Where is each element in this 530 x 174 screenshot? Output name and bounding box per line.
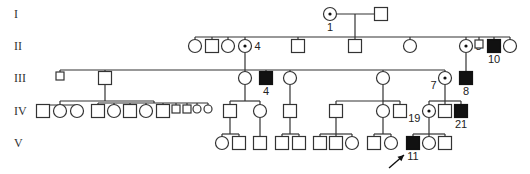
- individual-number: 7: [430, 79, 436, 91]
- individual-I-2: [375, 8, 388, 21]
- male-symbol: [439, 137, 452, 150]
- individual-V-11: 11: [407, 137, 420, 162]
- female-symbol: [71, 105, 84, 118]
- affected-male-symbol: [407, 137, 420, 150]
- individual-number: 4: [255, 40, 261, 52]
- male-symbol: [92, 105, 105, 118]
- generation-label-IV: IV: [14, 104, 27, 118]
- male-symbol: [56, 72, 64, 80]
- male-symbol: [292, 40, 305, 53]
- female-symbol: [54, 105, 67, 118]
- female-symbol: [222, 40, 235, 53]
- male-symbol: [157, 105, 170, 118]
- female-symbol: [284, 72, 297, 85]
- individual-V-6: [314, 137, 327, 150]
- individual-IV-12: [204, 105, 212, 113]
- female-symbol: [216, 137, 229, 150]
- female-symbol: [377, 105, 390, 118]
- individual-III-b: [99, 72, 112, 85]
- male-symbol: [314, 137, 327, 150]
- carrier-dot-icon: [427, 109, 430, 112]
- individual-II-e: [292, 40, 305, 53]
- male-symbol: [99, 72, 112, 85]
- individual-IV-11: [193, 105, 201, 113]
- individual-II-k: [504, 40, 517, 53]
- individual-IV-3: [71, 105, 84, 118]
- male-symbol: [276, 137, 289, 150]
- male-symbol: [233, 137, 246, 150]
- generation-label-II: II: [14, 39, 22, 53]
- affected-male-symbol: [260, 72, 273, 85]
- individual-III-a: [56, 72, 64, 80]
- male-symbol: [349, 40, 362, 53]
- male-symbol: [330, 105, 343, 118]
- individual-number: 19: [408, 112, 420, 124]
- individual-number: 4: [263, 85, 269, 97]
- male-symbol: [330, 137, 343, 150]
- individual-IV-21: 21: [455, 105, 468, 130]
- individual-II-a: [189, 40, 202, 53]
- individual-V-12: [423, 137, 436, 150]
- individual-V-4: [276, 137, 289, 150]
- individual-IV-1: [37, 105, 50, 118]
- individual-V-7: [330, 137, 343, 150]
- generation-label-V: V: [14, 136, 23, 150]
- individual-IV-14: [254, 105, 267, 118]
- male-symbol: [183, 105, 191, 113]
- pedigree-chart: IIIIIIIVV 14810478192111: [0, 0, 530, 174]
- carrier-dot-icon: [243, 44, 246, 47]
- individual-I-1: 1: [324, 8, 337, 33]
- individual-III-e: [284, 72, 297, 85]
- individual-IV-15: [284, 105, 297, 118]
- proband-arrow-icon: [389, 155, 404, 168]
- female-symbol: [140, 105, 153, 118]
- individual-IV-16: [330, 105, 343, 118]
- individual-IV-10: [183, 105, 191, 113]
- individual-III-7: 7: [430, 72, 451, 92]
- individual-IV-5: [108, 105, 121, 118]
- individual-IV-9: [172, 105, 180, 113]
- individual-II-b: [206, 40, 219, 53]
- carrier-dot-icon: [328, 12, 331, 15]
- individual-number: 11: [407, 150, 418, 162]
- female-symbol: [204, 105, 212, 113]
- individual-IV-8: [157, 105, 170, 118]
- individual-II-10: 10: [488, 40, 501, 65]
- female-symbol: [346, 137, 359, 150]
- individual-IV-13: [224, 105, 237, 118]
- individual-V-2: [233, 137, 246, 150]
- individual-V-8: [346, 137, 359, 150]
- male-symbol: [224, 105, 237, 118]
- individual-number: 1: [327, 21, 333, 33]
- individual-V-13: [439, 137, 452, 150]
- affected-male-symbol: [488, 40, 501, 53]
- female-symbol: [193, 105, 201, 113]
- generation-labels: IIIIIIIVV: [14, 7, 27, 150]
- individual-IV-6: [124, 105, 137, 118]
- individual-number: 10: [488, 53, 500, 65]
- female-symbol: [254, 105, 267, 118]
- individual-II-i: [475, 40, 483, 48]
- male-symbol: [206, 40, 219, 53]
- individual-IV-18: [394, 105, 407, 118]
- male-symbol: [394, 105, 407, 118]
- male-symbol: [375, 8, 388, 21]
- male-symbol: [475, 40, 483, 48]
- individuals: 14810478192111: [37, 8, 517, 162]
- carrier-dot-icon: [443, 76, 446, 79]
- individual-III-c: [239, 72, 252, 85]
- generation-label-III: III: [14, 71, 26, 85]
- male-symbol: [284, 105, 297, 118]
- female-symbol: [108, 105, 121, 118]
- individual-IV-19: 19: [408, 105, 435, 125]
- affected-male-symbol: [455, 105, 468, 118]
- male-symbol: [254, 137, 267, 150]
- female-symbol: [189, 40, 202, 53]
- individual-II-c: [222, 40, 235, 53]
- individual-II-4: 4: [239, 40, 261, 53]
- individual-II-g: [404, 40, 417, 53]
- female-symbol: [385, 137, 398, 150]
- male-symbol: [124, 105, 137, 118]
- individual-II-f: [349, 40, 362, 53]
- female-symbol: [404, 40, 417, 53]
